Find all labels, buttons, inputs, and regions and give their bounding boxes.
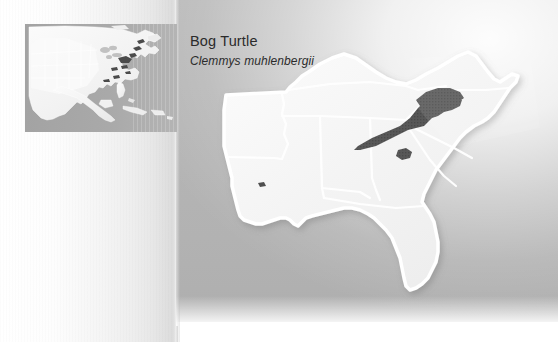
species-range-figure: Bog Turtle Clemmys muhlenbergii: [0, 0, 558, 342]
main-range-map: [210, 38, 558, 328]
inset-map-svg: [25, 24, 177, 132]
main-map-svg: [210, 38, 558, 328]
inset-locator-map: [25, 24, 177, 132]
